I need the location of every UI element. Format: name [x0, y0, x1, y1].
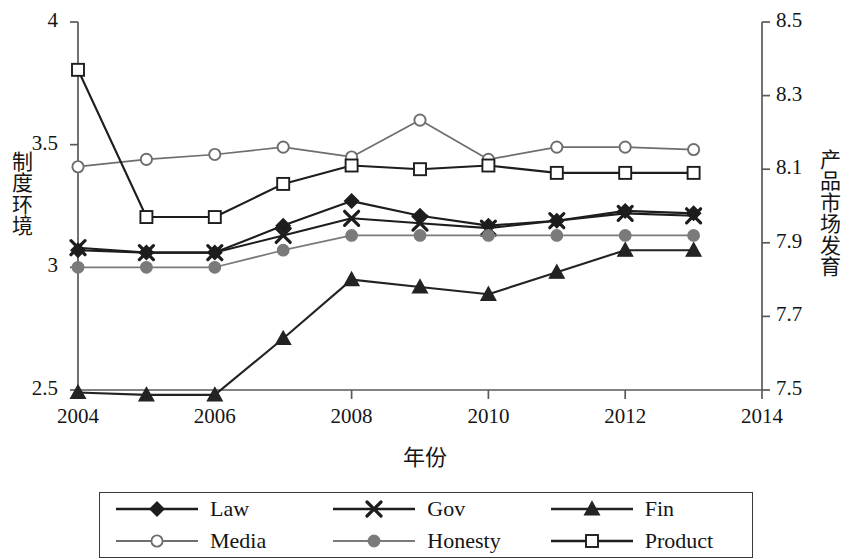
legend-item-fin[interactable]: Fin — [535, 496, 752, 522]
y-axis-left-tick-label: 4 — [14, 8, 58, 33]
chart-legend: LawGovFinMediaHonestyProduct — [99, 492, 753, 558]
data-point-marker — [688, 167, 700, 179]
series-line — [78, 213, 694, 252]
legend-symbol-filled-circle-icon — [331, 530, 417, 552]
series-line — [78, 70, 694, 217]
data-point-marker — [688, 230, 700, 242]
axis-title-char: 环 — [10, 195, 34, 216]
data-point-marker — [344, 272, 359, 286]
data-point-marker — [414, 163, 426, 175]
legend-symbol-open-square-icon — [549, 530, 635, 552]
data-point-marker — [141, 262, 153, 274]
data-point-marker — [345, 194, 359, 208]
legend-item-product[interactable]: Product — [535, 528, 752, 554]
axis-title-char: 育 — [818, 257, 842, 278]
series-media — [72, 115, 699, 173]
x-axis-tick-label: 2012 — [585, 404, 665, 429]
legend-symbol-open-circle-icon — [114, 530, 200, 552]
y-axis-left-title: 制度环境 — [10, 152, 34, 238]
data-point-marker — [618, 204, 632, 218]
series-fin — [71, 243, 702, 401]
legend-label: Honesty — [417, 528, 500, 554]
data-point-marker — [483, 230, 495, 242]
data-point-marker — [277, 178, 289, 190]
legend-label: Gov — [417, 496, 465, 522]
y-axis-right-tick-label: 7.5 — [776, 376, 836, 401]
legend-symbol-cross-x-icon — [331, 498, 417, 520]
data-point-marker — [482, 160, 494, 172]
data-point-marker — [551, 230, 563, 242]
series-line — [78, 120, 694, 167]
legend-label: Fin — [635, 496, 674, 522]
data-point-marker — [209, 149, 220, 160]
legend-label: Law — [200, 496, 249, 522]
axis-title-char: 境 — [10, 216, 34, 237]
x-axis-tick-label: 2004 — [38, 404, 118, 429]
y-axis-left-tick-label: 3.5 — [14, 131, 58, 156]
data-point-marker — [209, 211, 221, 223]
data-point-marker — [141, 154, 152, 165]
data-point-marker — [586, 535, 598, 547]
legend-item-law[interactable]: Law — [100, 496, 317, 522]
data-point-marker — [369, 535, 381, 547]
y-axis-right-tick-label: 7.7 — [776, 302, 836, 327]
legend-label: Media — [200, 528, 266, 554]
y-axis-right-tick-label: 8.5 — [776, 8, 836, 33]
data-point-marker — [414, 115, 425, 126]
y-axis-right-tick-label: 7.9 — [776, 229, 836, 254]
legend-symbol-filled-triangle-icon — [549, 498, 635, 520]
data-point-marker — [140, 211, 152, 223]
series-line — [78, 235, 694, 267]
data-point-marker — [688, 144, 699, 155]
data-point-marker — [551, 142, 562, 153]
data-point-marker — [277, 244, 289, 256]
data-point-marker — [414, 230, 426, 242]
legend-item-honesty[interactable]: Honesty — [317, 528, 534, 554]
y-axis-right-tick-label: 8.3 — [776, 82, 836, 107]
axis-title-char: 市 — [818, 193, 842, 214]
data-point-marker — [150, 502, 164, 516]
data-point-marker — [619, 167, 631, 179]
series-honesty — [72, 230, 699, 273]
y-axis-left-tick-label: 3 — [14, 253, 58, 278]
x-axis-tick-label: 2010 — [448, 404, 528, 429]
legend-item-gov[interactable]: Gov — [317, 496, 534, 522]
data-point-marker — [209, 262, 221, 274]
legend-symbol-filled-diamond-icon — [114, 498, 200, 520]
series-law — [71, 194, 701, 260]
legend-label: Product — [635, 528, 713, 554]
series-line — [78, 250, 694, 395]
data-point-marker — [346, 160, 358, 172]
series-product — [72, 64, 700, 223]
data-point-marker — [71, 243, 85, 257]
data-point-marker — [551, 167, 563, 179]
data-point-marker — [687, 206, 701, 220]
data-point-marker — [151, 535, 162, 546]
data-point-marker — [72, 161, 83, 172]
axis-title-char: 度 — [10, 173, 34, 194]
data-point-marker — [413, 209, 427, 223]
y-axis-right-tick-label: 8.1 — [776, 155, 836, 180]
x-axis-tick-label: 2014 — [722, 404, 802, 429]
series-line — [78, 201, 694, 253]
data-point-marker — [620, 142, 631, 153]
plot-frame — [78, 22, 762, 390]
x-axis-title: 年份 — [0, 447, 850, 469]
x-axis-tick-label: 2006 — [175, 404, 255, 429]
x-axis-tick-label: 2008 — [312, 404, 392, 429]
data-point-marker — [346, 230, 358, 242]
legend-item-media[interactable]: Media — [100, 528, 317, 554]
data-point-marker — [72, 64, 84, 76]
chart-page: 制度环境 产品市场发育 年份 2.533.547.57.77.98.18.38.… — [0, 0, 850, 559]
data-point-marker — [619, 230, 631, 242]
y-axis-left-tick-label: 2.5 — [14, 376, 58, 401]
data-point-marker — [278, 142, 289, 153]
data-point-marker — [72, 262, 84, 274]
